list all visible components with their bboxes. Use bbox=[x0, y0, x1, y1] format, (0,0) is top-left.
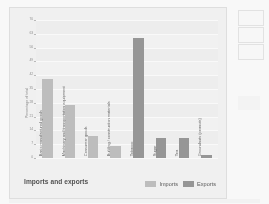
legend-item-imports: Imports bbox=[145, 181, 178, 187]
bar bbox=[42, 79, 52, 158]
grid-band bbox=[36, 34, 218, 48]
legend-swatch-exports bbox=[183, 181, 194, 187]
chart-title: Imports and exports bbox=[24, 178, 88, 186]
chart-footer: Imports and exports Imports Exports bbox=[10, 158, 226, 198]
gridline bbox=[36, 48, 218, 49]
y-axis: 07142128354249566370 bbox=[10, 20, 36, 158]
y-tick-label: 7 bbox=[31, 142, 33, 145]
bar-category-label: Sugar bbox=[153, 146, 157, 156]
side-panel bbox=[238, 10, 264, 62]
y-tick-label: 56 bbox=[29, 46, 33, 49]
y-tick-label: 14 bbox=[29, 129, 33, 132]
grid-band bbox=[36, 61, 218, 75]
legend-swatch-imports bbox=[145, 181, 156, 187]
page-bottom-strip bbox=[9, 199, 260, 203]
y-tick-label: 42 bbox=[29, 73, 33, 76]
side-panel-note bbox=[238, 96, 260, 110]
y-tick-label: 70 bbox=[29, 18, 33, 21]
y-tick-label: 21 bbox=[29, 115, 33, 118]
bar bbox=[179, 138, 189, 158]
side-panel-box bbox=[238, 44, 264, 60]
bar-category-label: Consumer goods bbox=[84, 126, 88, 156]
gridline bbox=[36, 61, 218, 62]
y-tick-label: 49 bbox=[29, 60, 33, 63]
side-panel-box bbox=[238, 27, 264, 43]
legend-label-exports: Exports bbox=[197, 181, 216, 187]
gridline bbox=[36, 34, 218, 35]
chart-card: 07142128354249566370 Percentage of total… bbox=[9, 7, 227, 199]
plot-area: Basic manufactured goodsMachinery and tr… bbox=[36, 20, 218, 158]
bar-category-label: Tobacco bbox=[130, 141, 134, 156]
bar bbox=[88, 136, 98, 158]
legend-label-imports: Imports bbox=[159, 181, 178, 187]
gridline bbox=[36, 20, 218, 21]
plot-background: Basic manufactured goodsMachinery and tr… bbox=[36, 20, 218, 158]
legend-item-exports: Exports bbox=[183, 181, 216, 187]
bar-category-label: Machinery and transportation equipment bbox=[62, 86, 66, 156]
y-axis-title: Percentage of total bbox=[25, 73, 29, 133]
side-panel-box bbox=[238, 10, 264, 26]
bar bbox=[133, 38, 143, 158]
bar-category-label: Basic manufactured goods bbox=[39, 110, 43, 156]
gridline bbox=[36, 75, 218, 76]
bar-category-label: Groundnuts (peanuts) bbox=[198, 118, 202, 156]
bar-category-label: Building / construction materials bbox=[107, 101, 111, 156]
page-root: 07142128354249566370 Percentage of total… bbox=[0, 0, 269, 204]
bar-category-label: Tea bbox=[175, 150, 179, 156]
y-tick-label: 35 bbox=[29, 87, 33, 90]
y-tick-label: 28 bbox=[29, 101, 33, 104]
bar bbox=[110, 146, 120, 158]
bar bbox=[156, 138, 166, 158]
legend: Imports Exports bbox=[145, 181, 216, 187]
bar bbox=[65, 105, 75, 158]
y-tick-label: 63 bbox=[29, 32, 33, 35]
